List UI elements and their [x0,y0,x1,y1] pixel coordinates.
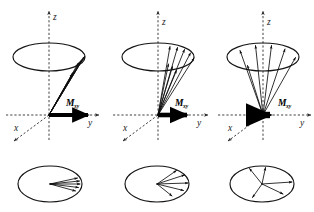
panel-1: z y x M xy [6,11,99,141]
x-axis-label-panel-2: x [122,123,128,133]
bottom-panel-2 [125,166,189,202]
x-axis-label-panel-1: x [13,123,19,133]
plane-spin-bundle-1 [50,178,80,191]
panel-2: z y x M xy [113,11,208,141]
y-axis-label-panel-1: y [87,118,93,128]
bottom-panel-1 [18,166,82,202]
mxy-label-sub-panel-2: xy [182,103,189,109]
bottom-panel-3 [230,166,294,202]
figure-root: z y x M xy [0,0,314,212]
mxy-label-sub-panel-3: xy [285,103,292,109]
x-axis-label-panel-3: x [227,123,233,133]
x-axis-panel-1 [14,115,49,141]
z-axis-label-panel-1: z [52,12,57,22]
y-axis-label-panel-2: y [196,118,202,128]
spin-dephasing-figure: z y x M xy [0,0,314,212]
panel-3: z y x M xy [218,11,311,141]
y-axis-label-panel-3: y [299,118,305,128]
z-axis-label-panel-2: z [161,17,166,27]
x-axis-panel-2 [123,115,158,141]
mxy-label-sub-panel-1: xy [73,103,80,109]
x-axis-panel-3 [228,115,263,141]
z-axis-label-panel-3: z [266,17,271,27]
